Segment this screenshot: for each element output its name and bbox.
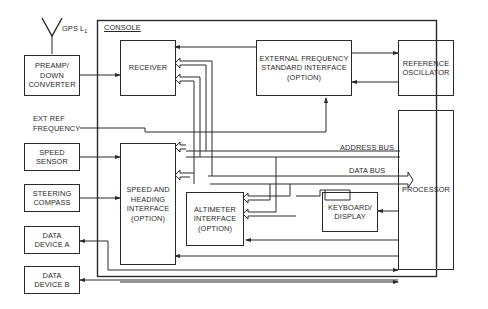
antenna-label: GPS L1 — [62, 24, 87, 37]
data-bus-label: DATA BUS — [349, 166, 385, 176]
altimeter-block: ALTIMETER INTERFACE (OPTION) — [186, 192, 244, 246]
speed-heading-block: SPEED AND HEADING INTERFACE (OPTION) — [120, 143, 176, 265]
ext-ref-label: EXT REF FREQUENCY — [33, 114, 80, 133]
processor-block: PROCESSOR — [398, 110, 454, 270]
address-bus-label: ADDRESS BUS — [340, 143, 394, 153]
ext-freq-std-block: EXTERNAL FREQUENCY STANDARD INTERFACE (O… — [256, 40, 352, 96]
receiver-block: RECEIVER — [120, 40, 176, 96]
ref-osc-block: REFERENCE OSCILLATOR — [398, 40, 454, 96]
antenna-icon — [42, 18, 62, 36]
data-device-b-block: DATA DEVICE B — [24, 266, 80, 294]
speed-sensor-block: SPEED SENSOR — [24, 143, 80, 171]
data-device-a-block: DATA DEVICE A — [24, 226, 80, 254]
keyboard-display-block: KEYBOARD/ DISPLAY — [322, 192, 378, 232]
console-label: CONSOLE — [104, 23, 141, 33]
steering-compass-block: STEERING COMPASS — [24, 184, 80, 212]
preamp-block: PREAMP/ DOWN CONVERTER — [24, 55, 80, 96]
